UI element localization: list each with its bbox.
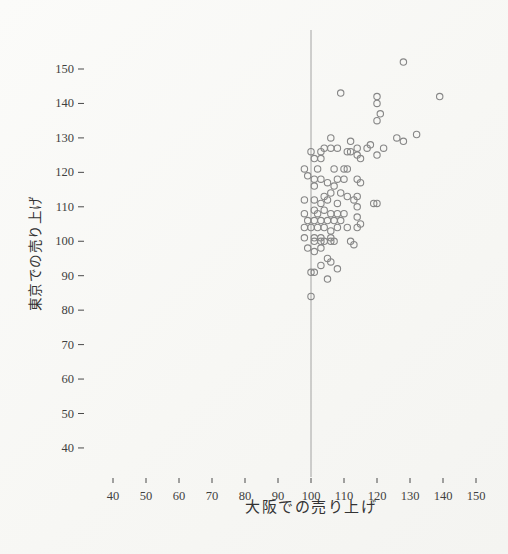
data-point [324, 276, 330, 282]
data-point [318, 200, 324, 206]
data-point [311, 176, 317, 182]
data-point [311, 155, 317, 161]
data-point [341, 211, 347, 217]
data-point [338, 217, 344, 223]
data-point [305, 245, 311, 251]
data-point [334, 211, 340, 217]
data-point [344, 193, 350, 199]
data-point [374, 152, 380, 158]
x-tick-label: 70 [206, 489, 219, 503]
y-axis-label: 東京での売り上げ [28, 195, 43, 311]
data-point [374, 118, 380, 124]
data-point [347, 138, 353, 144]
data-point [413, 131, 419, 137]
data-point [321, 207, 327, 213]
data-point [377, 111, 383, 117]
data-point [328, 135, 334, 141]
data-point [311, 197, 317, 203]
y-tick-label: 90 [62, 269, 75, 283]
scatter-plot-canvas: 405060708090100110120130140150 405060708… [0, 0, 508, 554]
data-point [314, 166, 320, 172]
data-point [321, 224, 327, 230]
data-point [374, 100, 380, 106]
data-point [334, 176, 340, 182]
x-tick-label: 150 [467, 489, 486, 503]
data-point [331, 217, 337, 223]
x-axis-label: 大阪での売り上げ [245, 499, 377, 515]
data-point [334, 200, 340, 206]
data-point [311, 183, 317, 189]
scanned-page: 405060708090100110120130140150 405060708… [0, 0, 508, 554]
x-tick-label: 130 [401, 489, 420, 503]
data-point [328, 228, 334, 234]
data-point [301, 224, 307, 230]
data-point [437, 93, 443, 99]
data-point [341, 176, 347, 182]
data-point [338, 90, 344, 96]
data-point [318, 176, 324, 182]
y-tick-label: 60 [62, 372, 75, 386]
y-tick-label: 70 [62, 338, 75, 352]
y-tick-label: 120 [55, 165, 74, 179]
data-point [354, 214, 360, 220]
x-tick-label: 140 [434, 489, 453, 503]
data-point [344, 224, 350, 230]
data-point [328, 145, 334, 151]
data-point [305, 173, 311, 179]
data-point [380, 145, 386, 151]
data-point [334, 145, 340, 151]
data-point [334, 224, 340, 230]
data-point [328, 211, 334, 217]
x-tick-label: 60 [173, 489, 186, 503]
data-point [394, 135, 400, 141]
x-tick-label: 50 [140, 489, 153, 503]
data-point [318, 245, 324, 251]
y-tick-label: 110 [56, 200, 74, 214]
y-tick-label: 100 [55, 234, 74, 248]
data-point [324, 180, 330, 186]
y-tick-label: 140 [55, 96, 74, 110]
data-point [354, 145, 360, 151]
data-point [324, 217, 330, 223]
data-point [338, 190, 344, 196]
x-tick-label: 40 [107, 489, 120, 503]
data-point [331, 166, 337, 172]
data-point [314, 224, 320, 230]
y-tick-label: 130 [55, 131, 74, 145]
y-tick-label: 80 [62, 303, 75, 317]
scatter-points [301, 59, 443, 300]
data-point [311, 248, 317, 254]
data-point [331, 183, 337, 189]
data-point [354, 204, 360, 210]
y-tick-label: 40 [62, 441, 75, 455]
data-point [301, 197, 307, 203]
data-point [305, 217, 311, 223]
data-point [301, 235, 307, 241]
y-tick-label: 50 [62, 407, 75, 421]
data-point [318, 217, 324, 223]
data-point [311, 217, 317, 223]
data-point [334, 266, 340, 272]
y-tick-label: 150 [55, 62, 74, 76]
data-point [374, 93, 380, 99]
data-point [400, 59, 406, 65]
data-point [400, 138, 406, 144]
data-point [301, 211, 307, 217]
data-point [318, 155, 324, 161]
y-axis-ticks: 405060708090100110120130140150 [55, 62, 84, 455]
data-point [301, 166, 307, 172]
data-point [318, 262, 324, 268]
data-point [328, 190, 334, 196]
